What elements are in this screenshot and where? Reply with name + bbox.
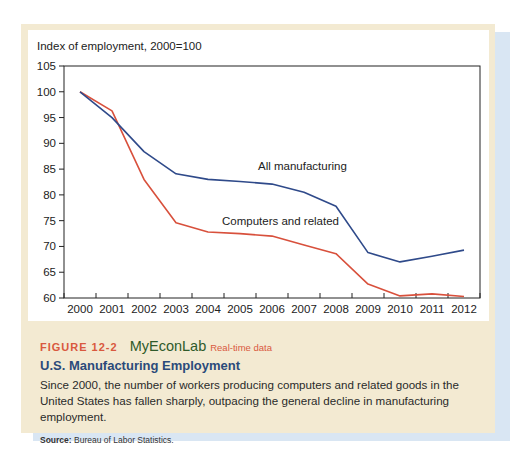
x-tick-label: 2000 [67, 303, 93, 315]
figure-source: Source: Bureau of Labor Statistics. [40, 435, 490, 445]
y-tick-label: 85 [43, 163, 56, 175]
x-tick-label: 2012 [451, 303, 477, 315]
x-tick-label: 2001 [99, 303, 125, 315]
source-text: Bureau of Labor Statistics. [72, 435, 174, 445]
y-tick-label: 100 [37, 86, 56, 98]
figure-number: FIGURE 12-2 [40, 341, 118, 353]
chart-series [80, 92, 464, 297]
series-line-computers-and-related [80, 92, 464, 297]
x-tick-label: 2004 [195, 303, 221, 315]
real-time-data-link[interactable]: Real-time data [210, 342, 272, 353]
figure-title: U.S. Manufacturing Employment [40, 358, 490, 373]
x-tick-label: 2011 [420, 303, 445, 315]
brand-logo[interactable]: MyEconLab [130, 338, 207, 354]
y-axis-ticks: 6065707580859095100105 [37, 60, 64, 304]
plot-frame [64, 66, 480, 298]
x-tick-label: 2010 [387, 303, 413, 315]
y-tick-label: 105 [37, 60, 56, 72]
figure-caption: FIGURE 12-2 MyEconLab Real-time data U.S… [40, 338, 490, 445]
y-tick-label: 75 [43, 215, 56, 227]
y-tick-label: 65 [43, 266, 56, 278]
x-tick-label: 2007 [291, 303, 317, 315]
x-tick-label: 2008 [323, 303, 349, 315]
y-tick-label: 90 [43, 137, 56, 149]
series-label-computers-related: Computers and related [222, 215, 339, 227]
figure-description: Since 2000, the number of workers produc… [40, 377, 490, 425]
x-tick-label: 2002 [131, 303, 157, 315]
y-tick-label: 60 [43, 292, 56, 304]
series-label-all-manufacturing: All manufacturing [258, 160, 347, 172]
x-tick-label: 2006 [259, 303, 285, 315]
chart-axes [64, 66, 480, 298]
source-label: Source: [40, 435, 72, 445]
figure-header: FIGURE 12-2 MyEconLab Real-time data [40, 338, 490, 356]
x-tick-label: 2005 [227, 303, 253, 315]
x-tick-label: 2009 [355, 303, 381, 315]
y-tick-label: 80 [43, 189, 56, 201]
y-tick-label: 95 [43, 112, 56, 124]
y-tick-label: 70 [43, 240, 56, 252]
x-tick-label: 2003 [163, 303, 189, 315]
x-axis-ticks: 2000200120022003200420052006200720082009… [64, 293, 480, 315]
